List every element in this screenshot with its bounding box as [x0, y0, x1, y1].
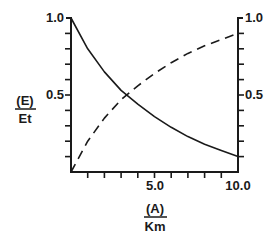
x-tick-10: 10.0 — [225, 178, 250, 193]
y-tick-left-05: 0.5 — [46, 87, 64, 102]
y-tick-right-1: 1.0 — [245, 10, 263, 25]
chart: 1.0 0.5 1.0 0.5 5.0 10.0 (E) Et (A) Km — [0, 0, 277, 240]
series-group — [71, 18, 238, 172]
x-label-denominator: Km — [145, 219, 166, 234]
x-tick-5: 5.0 — [146, 178, 164, 193]
series-solid-line — [71, 18, 238, 157]
y-label-numerator: (E) — [16, 93, 33, 108]
axes — [65, 18, 244, 178]
y-tick-left-1: 1.0 — [46, 10, 64, 25]
x-label-numerator: (A) — [146, 201, 164, 216]
y-tick-right-05: 0.5 — [245, 87, 263, 102]
y-label-denominator: Et — [19, 111, 33, 126]
series-dashed-line — [71, 33, 238, 172]
